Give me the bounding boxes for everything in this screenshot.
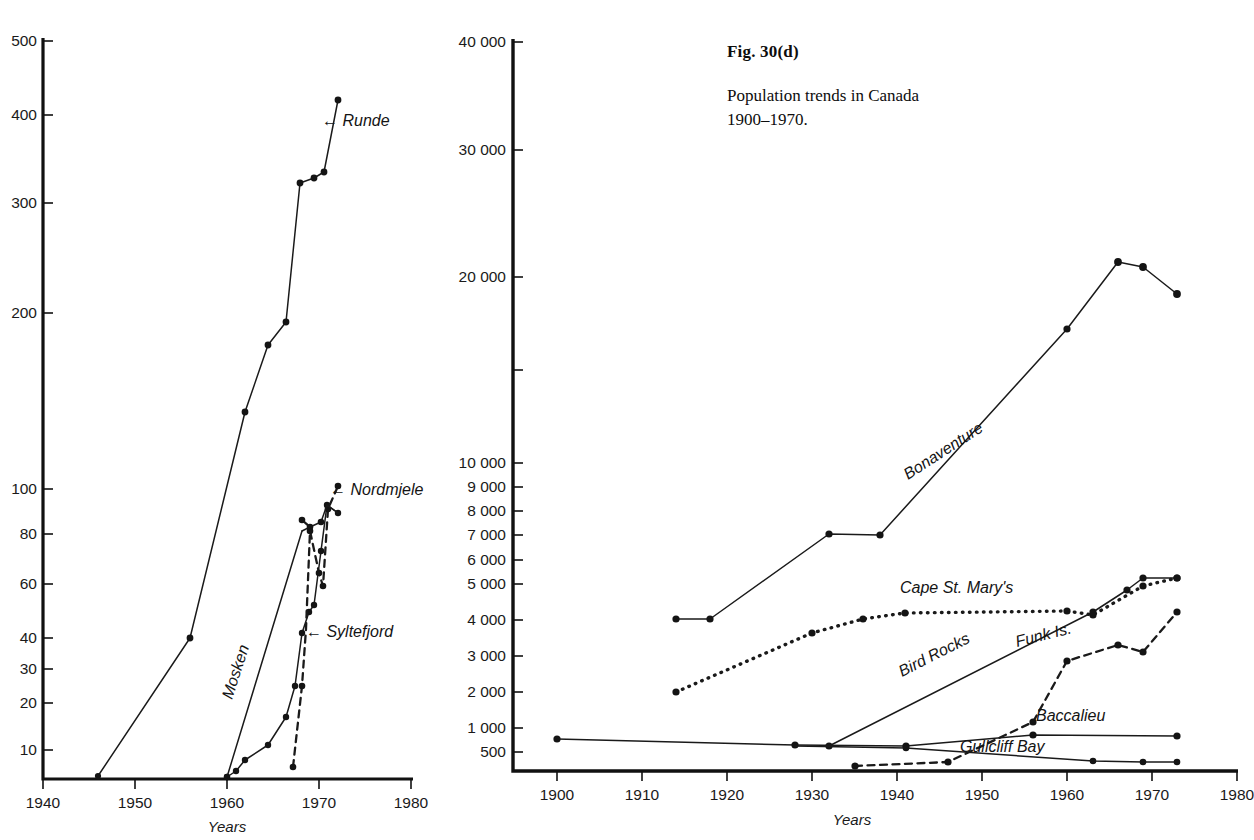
y-tick-label: 8 000 [467, 502, 506, 519]
x-tick-label: 1970 [302, 794, 337, 811]
y-tick-label: 30 [20, 660, 38, 677]
y-tick-label: 100 [11, 480, 37, 497]
figure-title-block: Fig. 30(d) Population trends in Canada 1… [727, 42, 1057, 132]
x-tick-label: 1950 [118, 794, 153, 811]
y-tick-label: 300 [11, 194, 37, 211]
right-y-tick-labels: 40 000 30 000 20 000 10 000 9 000 8 000 … [459, 33, 507, 760]
annotation-bonaventure: Bonaventure [900, 419, 985, 483]
y-tick-label: 40 000 [459, 33, 507, 50]
figure-number: Fig. 30(d) [727, 42, 1057, 62]
y-tick-label: 6 000 [467, 551, 506, 568]
x-tick-label: 1980 [1220, 786, 1254, 803]
figure-caption-line1: Population trends in Canada [727, 86, 919, 105]
y-tick-label: 10 000 [459, 454, 507, 471]
left-chart-panel: 500 400 300 200 100 80 60 40 30 20 10 [0, 0, 440, 840]
x-tick-label: 1960 [1050, 786, 1085, 803]
series-bonaventure [672, 258, 1180, 623]
annotation-cape-st-marys: Cape St. Mary's [900, 579, 1013, 596]
right-axis-lines [513, 39, 1238, 771]
figure-caption: Population trends in Canada 1900–1970. [727, 84, 1057, 132]
y-tick-label: 30 000 [459, 141, 507, 158]
annotation-gullcliff-bay: Gullcliff Bay [960, 738, 1045, 755]
x-tick-label: 1940 [880, 786, 915, 803]
y-tick-label: 3 000 [467, 647, 506, 664]
annotation-baccalieu: Baccalieu [1036, 707, 1105, 724]
y-tick-label: 400 [11, 106, 37, 123]
x-tick-label: 1920 [710, 786, 745, 803]
y-tick-label: 5 000 [467, 575, 506, 592]
left-chart-svg: 500 400 300 200 100 80 60 40 30 20 10 [0, 0, 440, 840]
x-tick-label: 1950 [965, 786, 1000, 803]
y-tick-label: 9 000 [467, 478, 506, 495]
annotation-syltefjord: ← Syltefjord [306, 623, 394, 640]
y-tick-label: 500 [11, 32, 37, 49]
y-tick-label: 500 [480, 743, 506, 760]
y-tick-label: 10 [20, 741, 38, 758]
right-x-tick-labels: 1900 1910 1920 1930 1940 1950 1960 1970 … [540, 786, 1254, 803]
left-y-tick-labels: 500 400 300 200 100 80 60 40 30 20 10 [11, 32, 37, 758]
y-tick-label: 2 000 [467, 683, 506, 700]
y-tick-label: 60 [20, 575, 38, 592]
annotation-nordmjele: ← Nordmjele [330, 481, 423, 498]
x-tick-label: 1910 [625, 786, 660, 803]
annotation-runde: ← Runde [322, 112, 390, 129]
y-tick-label: 20 000 [459, 268, 507, 285]
series-upper-cluster [299, 505, 338, 531]
figure-page: 500 400 300 200 100 80 60 40 30 20 10 [0, 0, 1254, 840]
x-tick-label: 1900 [540, 786, 575, 803]
x-tick-label: 1960 [210, 794, 245, 811]
series-runde [95, 97, 342, 780]
y-tick-label: 20 [20, 694, 38, 711]
y-tick-label: 200 [11, 304, 37, 321]
series-bird-rocks [825, 574, 1180, 749]
annotation-funk-is: Funk Is. [1014, 620, 1073, 650]
x-tick-label: 1930 [795, 786, 830, 803]
y-tick-label: 1 000 [467, 719, 506, 736]
series-syltefjord [224, 502, 341, 780]
left-x-axis-label: Years [208, 818, 247, 835]
annotation-bird-rocks: Bird Rocks [896, 629, 973, 679]
left-x-tick-labels: 1940 1950 1960 1970 1980 [26, 794, 429, 811]
x-tick-label: 1940 [26, 794, 61, 811]
y-tick-label: 4 000 [467, 611, 506, 628]
annotation-mosken: Mosken [219, 642, 253, 701]
y-tick-label: 80 [20, 525, 38, 542]
figure-caption-line2: 1900–1970. [727, 108, 1057, 132]
x-tick-label: 1970 [1135, 786, 1170, 803]
y-tick-label: 7 000 [467, 526, 506, 543]
right-x-axis-label: Years [833, 811, 872, 828]
y-tick-label: 40 [20, 629, 38, 646]
